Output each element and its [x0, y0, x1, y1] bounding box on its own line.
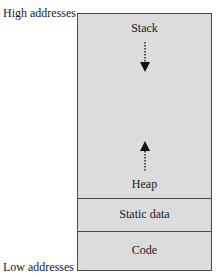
heap-label: Heap: [78, 177, 211, 192]
stack-label: Stack: [78, 21, 211, 36]
static-data-label: Static data: [78, 207, 211, 222]
low-addresses-label: Low addresses: [3, 260, 74, 275]
code-segment: Code: [78, 231, 211, 270]
stack-heap-region: Stack Heap: [78, 14, 211, 198]
code-label: Code: [78, 243, 211, 258]
static-data-segment: Static data: [78, 198, 211, 231]
high-addresses-label: High addresses: [3, 6, 76, 21]
heap-grows-up-arrow-icon: [138, 140, 152, 172]
stack-grows-down-arrow-icon: [138, 42, 152, 74]
memory-layout-box: Stack Heap Static data Code: [77, 13, 212, 271]
